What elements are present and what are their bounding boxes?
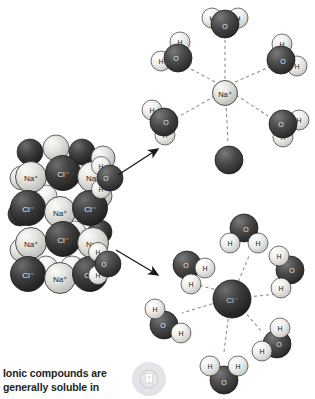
water-molecule xyxy=(215,146,243,174)
oxygen-label: O xyxy=(276,341,282,348)
lattice-ion-chloride: Cl⁻ xyxy=(46,156,81,191)
hydrogen-label: H xyxy=(188,281,193,288)
water-molecule: H H O xyxy=(151,32,192,72)
water-molecule: H H O xyxy=(202,8,248,38)
oxygen-label: O xyxy=(103,175,108,182)
water-molecule: H H O xyxy=(267,34,307,76)
hydrogen-label: H xyxy=(278,285,283,292)
water-molecule: H H O xyxy=(142,100,178,145)
ion-label: Cl⁻ xyxy=(22,205,34,214)
water-molecule: O H H xyxy=(145,299,191,343)
water-molecule: O H H xyxy=(200,356,248,394)
arrow-to-sodium-shell xyxy=(118,149,158,175)
hydrogen-label: H xyxy=(277,325,282,332)
oxygen-label: O xyxy=(243,226,249,233)
lattice-ion-chloride: Cl⁻ xyxy=(11,257,46,292)
hydrogen-label: H xyxy=(152,306,157,313)
oxygen-label: O xyxy=(163,119,169,126)
figure-canvas: Na⁺ Cl⁻ Na⁺ Cl⁻ Na⁺ xyxy=(0,0,315,399)
hydrogen-label: H xyxy=(178,330,183,337)
sodium-hydration-shell: H H O H H O H H O xyxy=(142,8,309,174)
oxygen-label: O xyxy=(160,322,166,329)
hydrogen-label: H xyxy=(207,363,212,370)
oxygen-label: O xyxy=(280,58,286,65)
oxygen-label: O xyxy=(183,262,189,269)
ion-label: Cl⁻ xyxy=(57,170,69,179)
center-ion-label: Cl⁻ xyxy=(226,296,238,305)
ion-label: Cl⁻ xyxy=(57,236,69,245)
crystal-lattice: Na⁺ Cl⁻ Na⁺ Cl⁻ Na⁺ xyxy=(8,135,123,294)
hydrogen-label: H xyxy=(202,265,207,272)
caption-line-2: generally soluble in xyxy=(3,381,123,395)
water-molecule: O H H xyxy=(269,246,304,298)
lattice-ion-sodium: Na⁺ xyxy=(16,162,47,193)
ion-label: Cl⁻ xyxy=(84,205,96,214)
center-ion-chloride: Cl⁻ xyxy=(213,280,251,318)
lattice-ion-sodium: Na⁺ xyxy=(16,228,47,259)
hydrogen-label: H xyxy=(227,240,232,247)
water-molecule: H H O xyxy=(269,110,309,147)
oxygen-label: O xyxy=(173,55,179,62)
caption-line-1: Ionic compounds are xyxy=(3,367,123,381)
ion-label: Na⁺ xyxy=(24,174,38,183)
lattice-ion-chloride: Cl⁻ xyxy=(46,222,81,257)
water-molecule: O H H xyxy=(252,318,291,361)
lattice-ion-chloride: Cl⁻ xyxy=(11,191,46,226)
caption-text: Ionic compounds are generally soluble in xyxy=(3,367,123,394)
diagram-svg: Na⁺ Cl⁻ Na⁺ Cl⁻ Na⁺ xyxy=(0,0,315,399)
oxygen-label: O xyxy=(101,261,106,268)
bookmark-glyph xyxy=(139,369,159,389)
oxygen-label: O xyxy=(222,23,228,30)
lattice-ion-sodium: Na⁺ xyxy=(45,263,76,294)
hydrogen-label: H xyxy=(235,363,240,370)
ion-label: Na⁺ xyxy=(24,240,38,249)
hydrogen-label: H xyxy=(294,63,299,70)
water-molecule: O H H xyxy=(220,214,268,253)
center-ion-label: Na⁺ xyxy=(218,90,232,99)
hydrogen-label: H xyxy=(276,253,281,260)
water-molecule: O H H xyxy=(173,251,215,294)
oxygen-label: O xyxy=(221,379,227,386)
arrow-to-chloride-shell xyxy=(116,250,158,275)
center-ion-sodium: Na⁺ xyxy=(213,81,238,106)
hydrogen-label: H xyxy=(158,58,163,65)
ion-label: Na⁺ xyxy=(53,275,67,284)
ion-label: Cl⁻ xyxy=(22,271,34,280)
oxygen-label: O xyxy=(278,121,284,128)
hydrogen-label: H xyxy=(259,348,264,355)
ion-label: Na⁺ xyxy=(53,209,67,218)
oxygen-label: O xyxy=(289,267,295,274)
chloride-hydration-shell: O H H O H H O H H xyxy=(145,214,304,394)
hydrogen-label: H xyxy=(255,240,260,247)
bookmark-badge-icon[interactable] xyxy=(132,362,166,396)
